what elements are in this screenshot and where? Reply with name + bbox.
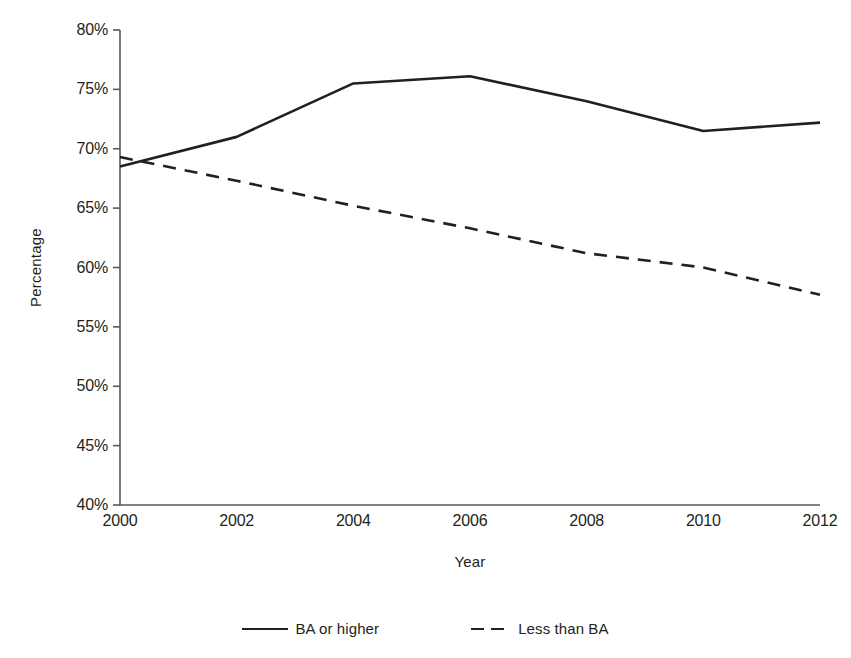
x-axis-tick-label: 2008 bbox=[542, 512, 632, 530]
series-line-1 bbox=[120, 76, 820, 166]
x-axis-tick-label: 2000 bbox=[75, 512, 165, 530]
axis-spine bbox=[120, 30, 820, 505]
x-axis-tick-label: 2002 bbox=[192, 512, 282, 530]
series-line-2 bbox=[120, 157, 820, 295]
legend-item-less-than-ba: Less than BA bbox=[465, 620, 608, 637]
line-chart: Percentage 80%75%70%65%60%55%50%45%40% 2… bbox=[0, 0, 851, 658]
legend-solid-line-icon bbox=[242, 623, 288, 635]
legend-dashed-line-icon bbox=[465, 623, 511, 635]
x-axis-tick-label: 2006 bbox=[425, 512, 515, 530]
chart-legend: BA or higher Less than BA bbox=[0, 620, 851, 637]
x-axis-tick-label: 2010 bbox=[658, 512, 748, 530]
legend-label: Less than BA bbox=[518, 620, 608, 637]
x-axis-tick-label: 2012 bbox=[775, 512, 851, 530]
legend-item-ba-or-higher: BA or higher bbox=[242, 620, 379, 637]
x-axis-title: Year bbox=[120, 553, 820, 570]
x-axis-tick-label: 2004 bbox=[308, 512, 398, 530]
legend-label: BA or higher bbox=[295, 620, 379, 637]
